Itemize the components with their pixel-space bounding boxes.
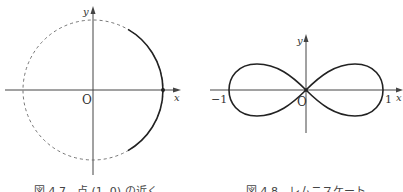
figure-4-8: O −1 1 x y: [210, 34, 403, 133]
y-axis-label: y: [296, 35, 303, 46]
tick-minus-one: −1: [211, 93, 227, 106]
figure-canvas: O x y O −1 1 x y: [0, 0, 403, 192]
tick-one: 1: [385, 93, 392, 106]
point-1-0: [161, 88, 165, 92]
caption-figure-4-7: 図 4.7 点 (1, 0) の近く: [34, 182, 158, 192]
origin-label: O: [297, 95, 307, 109]
figure-4-7: O x y: [5, 6, 181, 175]
origin-label: O: [82, 93, 92, 107]
x-axis-label: x: [174, 92, 180, 103]
y-axis-arrow-icon: [304, 34, 309, 42]
caption-figure-4-8: 図 4.8 レムニスケート: [246, 182, 366, 192]
origin-point: [304, 88, 308, 92]
x-axis-label: x: [396, 92, 402, 103]
y-axis-label: y: [82, 6, 89, 17]
y-axis-arrow-icon: [91, 6, 96, 14]
